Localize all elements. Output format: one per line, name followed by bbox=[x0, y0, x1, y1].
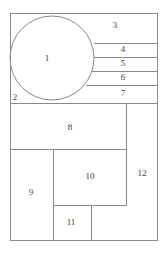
region-label-4: 4 bbox=[121, 44, 126, 54]
region-label-1: 1 bbox=[45, 53, 50, 63]
region-label-3: 3 bbox=[113, 20, 118, 30]
layout-diagram: 1 2 3 4 5 6 7 8 9 10 11 12 bbox=[0, 0, 164, 257]
region-label-7: 7 bbox=[121, 88, 126, 98]
region-label-12: 12 bbox=[138, 168, 147, 178]
region-label-5: 5 bbox=[121, 58, 126, 68]
region-label-10: 10 bbox=[86, 171, 96, 181]
region-label-6: 6 bbox=[121, 72, 126, 82]
region-label-8: 8 bbox=[68, 122, 73, 132]
region-label-11: 11 bbox=[67, 217, 76, 227]
outer-frame bbox=[11, 14, 158, 241]
region-label-9: 9 bbox=[29, 187, 34, 197]
circle-region-1 bbox=[10, 16, 94, 100]
region-label-2: 2 bbox=[13, 92, 18, 102]
